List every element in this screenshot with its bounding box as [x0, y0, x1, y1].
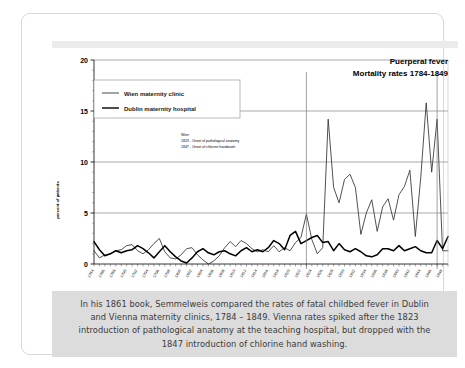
- wien-events-note: Wien 1823 - Onset of pathological anatom…: [181, 133, 239, 149]
- x-tick-label-1840: 1840: [391, 268, 400, 279]
- y-tick-label-0: 0: [84, 261, 88, 268]
- x-tick-label-1826: 1826: [315, 269, 324, 279]
- note-line-1: Wien: [181, 133, 189, 137]
- x-tick-label-1818: 1818: [271, 269, 280, 279]
- legend-label-wien: Wien maternity clinic: [124, 91, 185, 97]
- figure-caption: In his 1861 book, Semmelweis compared th…: [52, 291, 457, 357]
- puerperal-fever-line-chart: 05101520 1784178617881790179217941796179…: [50, 50, 460, 290]
- x-tick-label-1844: 1844: [413, 268, 422, 279]
- card-top-band: [52, 41, 458, 48]
- x-tick-label-1834: 1834: [359, 268, 368, 279]
- x-tick-label-1842: 1842: [402, 269, 411, 279]
- chart-figure: 05101520 1784178617881790179217941796179…: [50, 50, 460, 290]
- x-tick-label-1786: 1786: [97, 269, 106, 279]
- chart-legend: Wien maternity clinic Dublin maternity h…: [94, 80, 240, 118]
- y-tick-label-20: 20: [80, 57, 88, 64]
- legend-label-dublin: Dublin maternity hospital: [124, 106, 196, 112]
- x-tick-label-1800: 1800: [173, 268, 182, 279]
- x-tick-label-1838: 1838: [380, 269, 389, 279]
- figure-card: 05101520 1784178617881790179217941796179…: [21, 13, 444, 355]
- x-tick-label-1794: 1794: [141, 268, 150, 279]
- x-tick-label-1828: 1828: [326, 269, 335, 279]
- x-tick-label-1830: 1830: [337, 268, 346, 279]
- series-line-wien: [94, 103, 448, 264]
- legend-box: [94, 80, 240, 118]
- note-line-2: 1823 - Onset of pathological anatomy: [181, 139, 239, 143]
- x-tick-label-1822: 1822: [293, 269, 302, 279]
- x-tick-label-1812: 1812: [239, 269, 248, 279]
- caption-text: In his 1861 book, Semmelweis compared th…: [72, 298, 437, 351]
- series-lines: [94, 103, 448, 264]
- y-axis-ticks: 05101520: [80, 57, 94, 268]
- chart-title: Puerperal fever: [390, 57, 448, 66]
- x-tick-label-1788: 1788: [108, 269, 117, 279]
- x-tick-label-1802: 1802: [184, 269, 193, 279]
- x-tick-label-1820: 1820: [282, 268, 291, 279]
- y-tick-label-5: 5: [84, 210, 88, 217]
- x-tick-label-1848: 1848: [435, 269, 444, 279]
- x-tick-label-1816: 1816: [260, 269, 269, 279]
- x-tick-label-1808: 1808: [217, 269, 226, 279]
- x-tick-label-1836: 1836: [369, 269, 378, 279]
- x-axis-ticks: 1784178617881790179217941796179818001802…: [86, 264, 448, 278]
- x-tick-label-1806: 1806: [206, 269, 215, 279]
- y-axis-label: percent of patients: [55, 181, 60, 219]
- x-tick-label-1796: 1796: [152, 269, 161, 279]
- x-tick-label-1832: 1832: [348, 269, 357, 279]
- x-tick-label-1784: 1784: [86, 268, 95, 279]
- x-tick-label-1814: 1814: [250, 268, 259, 279]
- x-tick-label-1804: 1804: [195, 268, 204, 279]
- y-tick-label-10: 10: [80, 159, 88, 166]
- x-tick-label-1792: 1792: [130, 269, 139, 279]
- series-line-dublin: [94, 231, 448, 263]
- x-tick-label-1846: 1846: [424, 269, 433, 279]
- screenshot-root: 05101520 1784178617881790179217941796179…: [0, 0, 465, 368]
- x-tick-label-1824: 1824: [304, 268, 313, 279]
- x-tick-label-1798: 1798: [162, 269, 171, 279]
- chart-subtitle: Mortality rates 1784-1849: [353, 69, 449, 78]
- x-tick-label-1810: 1810: [228, 268, 237, 279]
- note-line-3: 1847 - Onset of chlorine handwash: [181, 145, 235, 149]
- y-tick-label-15: 15: [80, 108, 88, 115]
- x-tick-label-1790: 1790: [119, 268, 128, 279]
